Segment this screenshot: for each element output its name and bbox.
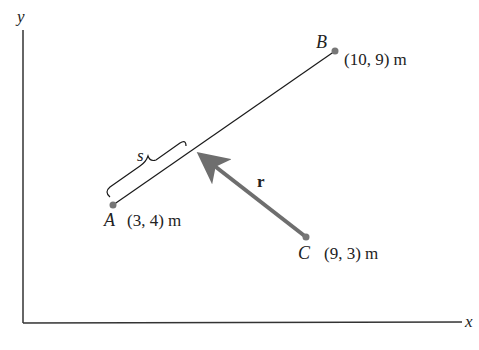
x-axis-label: x (464, 312, 473, 331)
line-ab (113, 51, 335, 205)
point-a-dot (110, 202, 117, 209)
point-c-dot (303, 234, 310, 241)
point-a-name: A (103, 210, 116, 230)
point-b-dot (332, 48, 339, 55)
x-axis (23, 322, 462, 323)
vector-label-r: r (257, 172, 265, 191)
segment-label-s: s (137, 146, 144, 165)
position-vector-diagram: y x s r A (3, 4) m B (10, 9) m C (9, 3) … (0, 0, 479, 350)
brace-s (107, 142, 186, 197)
point-c-name: C (298, 243, 311, 263)
y-axis-label: y (15, 7, 25, 26)
point-b-name: B (316, 32, 327, 52)
point-b-coords: (10, 9) m (344, 50, 407, 69)
point-c-coords: (9, 3) m (324, 244, 378, 263)
point-a-coords: (3, 4) m (127, 211, 181, 230)
vector-r (203, 157, 306, 237)
